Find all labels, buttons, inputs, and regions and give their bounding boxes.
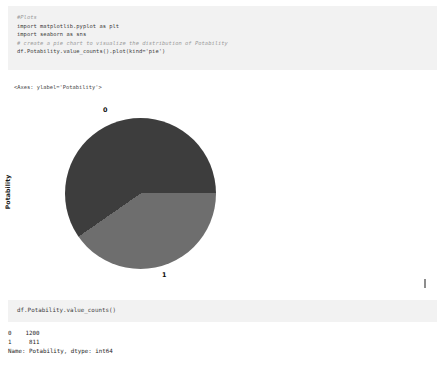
code-line: df.Potability.value_counts().plot(kind='… — [17, 47, 437, 56]
pie-wrapper: 0 1 — [65, 118, 216, 269]
code-line: import matplotlib.pyplot as plt — [17, 22, 437, 31]
chart-ylabel: Potability — [4, 162, 11, 222]
code-cell-value-counts[interactable]: df.Potability.value_counts() — [8, 300, 437, 322]
cell-output-repr: <Axes: ylabel='Potability'> — [14, 83, 102, 91]
output-line: Name: Potability, dtype: int64 — [8, 347, 437, 356]
pie-label-1: 1 — [162, 271, 166, 279]
code-line: #Plots — [17, 13, 437, 22]
code-line: # create a pie chart to visualize the di… — [17, 39, 437, 48]
text-caret — [424, 279, 426, 288]
output-line: 1 811 — [8, 338, 437, 347]
code-line: import seaborn as sns — [17, 30, 437, 39]
cell-output-value-counts: 0 1200 1 811 Name: Potability, dtype: in… — [8, 329, 437, 357]
output-line: 0 1200 — [8, 329, 437, 338]
pie-chart-figure: Potability 0 1 — [8, 96, 308, 292]
code-cell-plot[interactable]: #Plots import matplotlib.pyplot as plt i… — [8, 6, 437, 70]
code-line: df.Potability.value_counts() — [17, 306, 437, 315]
pie-slices — [65, 118, 216, 269]
pie-label-0: 0 — [103, 106, 107, 114]
